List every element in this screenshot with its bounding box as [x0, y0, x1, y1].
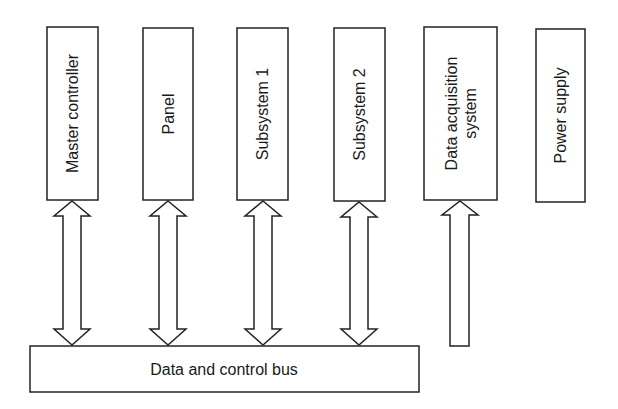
module-subsystem-2: Subsystem 2	[334, 28, 385, 201]
data-and-control-bus: Data and control bus	[30, 346, 419, 392]
bidirectional-arrow-icon	[341, 202, 377, 345]
module-box	[424, 27, 497, 200]
bidirectional-arrow-icon	[245, 201, 281, 345]
module-label-line-2: system	[462, 88, 479, 139]
bidirectional-arrow-icon	[54, 201, 90, 345]
module-subsystem-1: Subsystem 1	[237, 28, 288, 200]
bidirectional-arrow-icon	[150, 201, 186, 345]
module-label-line-1: Data acquisition	[443, 57, 460, 171]
module-panel: Panel	[143, 28, 193, 200]
system-block-diagram: Master controller Panel Subsystem 1 Subs…	[0, 0, 618, 409]
module-label: Master controller	[64, 53, 81, 173]
module-data-acquisition-system: Data acquisition system	[424, 27, 497, 200]
module-power-supply: Power supply	[536, 29, 585, 202]
module-label: Subsystem 2	[351, 68, 368, 161]
module-label: Panel	[160, 94, 177, 135]
module-master-controller: Master controller	[47, 27, 98, 200]
module-label: Subsystem 1	[254, 68, 271, 161]
bus-label: Data and control bus	[150, 361, 298, 378]
up-arrow-icon	[442, 201, 478, 346]
module-label: Power supply	[552, 67, 569, 163]
